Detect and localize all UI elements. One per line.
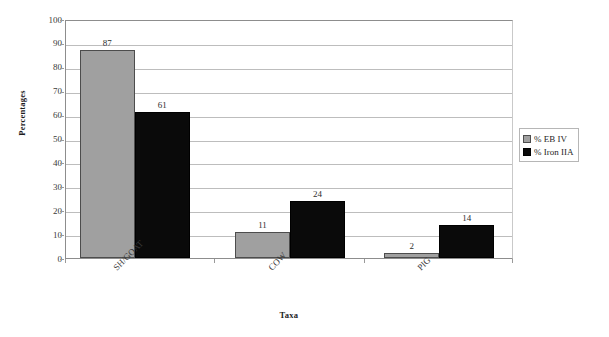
bar-value-label: 87 bbox=[87, 39, 127, 48]
bar-group: 214 bbox=[384, 21, 494, 258]
x-axis-title: Taxa bbox=[65, 310, 513, 320]
bar-value-label: 61 bbox=[142, 101, 182, 110]
y-axis-tick-mark bbox=[60, 211, 64, 212]
x-axis-tick-mark bbox=[214, 259, 215, 263]
y-axis-tick-mark bbox=[60, 116, 64, 117]
y-axis-tick-label: 100 bbox=[4, 16, 62, 25]
x-axis-category-labels: SH/GOATCOWPIG bbox=[65, 260, 513, 305]
bar-group: 1124 bbox=[235, 21, 345, 258]
bar[interactable] bbox=[80, 50, 135, 258]
bar[interactable] bbox=[290, 201, 345, 258]
bar-chart: Percentages 1009080706050403020100 87611… bbox=[0, 0, 609, 337]
y-axis-tick-label: 10 bbox=[4, 231, 62, 240]
bar[interactable] bbox=[135, 112, 190, 258]
legend-item-label: % EB IV bbox=[534, 134, 567, 144]
y-axis-tick-label: 90 bbox=[4, 39, 62, 48]
legend-item[interactable]: % EB IV bbox=[523, 132, 574, 145]
y-axis-tick-mark bbox=[60, 44, 64, 45]
y-axis-tick-label: 40 bbox=[4, 159, 62, 168]
y-axis-tick-label: 0 bbox=[4, 255, 62, 264]
legend-item[interactable]: % Iron IIA bbox=[523, 145, 574, 158]
y-axis-tick-label: 20 bbox=[4, 207, 62, 216]
bar-value-label: 11 bbox=[243, 221, 283, 230]
y-axis-tick-mark bbox=[60, 20, 64, 21]
y-axis-tick-label: 60 bbox=[4, 111, 62, 120]
y-axis-tick-mark bbox=[60, 92, 64, 93]
bar-value-label: 14 bbox=[447, 214, 487, 223]
legend-swatch-iron-iia-icon bbox=[523, 148, 531, 156]
bar[interactable] bbox=[439, 225, 494, 258]
y-axis-tick-mark bbox=[60, 235, 64, 236]
plot-area: 87611124214 bbox=[65, 20, 513, 259]
x-axis-tick-mark bbox=[512, 259, 513, 263]
bars-layer: 87611124214 bbox=[66, 21, 512, 258]
legend-swatch-eb-iv-icon bbox=[523, 135, 531, 143]
bar-value-label: 24 bbox=[298, 190, 338, 199]
y-axis-tick-labels: 1009080706050403020100 bbox=[0, 0, 62, 337]
bar-value-label: 2 bbox=[392, 242, 432, 251]
y-axis-tick-label: 80 bbox=[4, 63, 62, 72]
y-axis-tick-label: 70 bbox=[4, 87, 62, 96]
x-axis-tick-mark bbox=[364, 259, 365, 263]
y-axis-tick-mark bbox=[60, 259, 64, 260]
x-axis-tick-mark bbox=[65, 259, 66, 263]
y-axis-tick-mark bbox=[60, 140, 64, 141]
bar[interactable] bbox=[384, 253, 439, 258]
y-axis-tick-mark bbox=[60, 163, 64, 164]
legend-item-label: % Iron IIA bbox=[534, 147, 574, 157]
chart-legend: % EB IV % Iron IIA bbox=[519, 128, 579, 162]
y-axis-tick-label: 30 bbox=[4, 183, 62, 192]
y-axis-tick-mark bbox=[60, 187, 64, 188]
y-axis-tick-mark bbox=[60, 68, 64, 69]
bar-group: 8761 bbox=[80, 21, 190, 258]
y-axis-tick-label: 50 bbox=[4, 135, 62, 144]
